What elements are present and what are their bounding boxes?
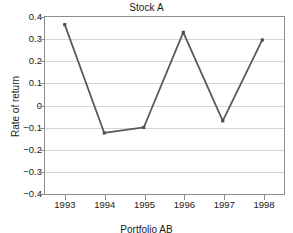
chart-figure: Stock A Rate of return 0.40.30.20.10−0.1… <box>0 0 293 233</box>
data-point-marker <box>103 131 106 134</box>
x-tick-mark <box>224 195 225 200</box>
x-tick-mark <box>65 195 66 200</box>
x-tick-label: 1996 <box>163 199 205 210</box>
x-tick-mark <box>184 195 185 200</box>
data-point-marker <box>182 31 185 34</box>
figure-caption: Portfolio AB <box>0 224 293 233</box>
y-tick-label: −0.3 <box>2 167 42 177</box>
x-tick-label: 1995 <box>124 199 166 210</box>
series-stock-a <box>45 17 284 194</box>
x-tick-label: 1994 <box>84 199 126 210</box>
data-point-marker <box>142 126 145 129</box>
chart-title: Stock A <box>0 2 293 14</box>
x-tick-mark <box>105 195 106 200</box>
y-tick-label: −0.1 <box>2 123 42 133</box>
y-tick-label: 0 <box>2 101 42 111</box>
y-tick-label: 0.1 <box>2 78 42 88</box>
x-tick-mark <box>145 195 146 200</box>
data-point-marker <box>63 23 66 26</box>
y-tick-label: −0.4 <box>2 189 42 199</box>
y-tick-label: −0.2 <box>2 145 42 155</box>
y-tick-label: 0.4 <box>2 12 42 22</box>
data-point-marker <box>261 38 264 41</box>
series-line <box>65 25 263 133</box>
plot-area <box>44 16 285 195</box>
x-tick-mark <box>264 195 265 200</box>
x-tick-label: 1997 <box>203 199 245 210</box>
x-tick-label: 1998 <box>243 199 285 210</box>
x-tick-label: 1993 <box>44 199 86 210</box>
y-tick-label: 0.2 <box>2 56 42 66</box>
y-tick-label: 0.3 <box>2 34 42 44</box>
data-point-marker <box>221 119 224 122</box>
